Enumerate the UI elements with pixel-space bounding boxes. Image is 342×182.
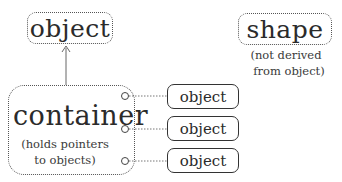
container-note: (holds pointers to objects) bbox=[9, 136, 121, 168]
shape-note-line1: (not derived bbox=[230, 47, 342, 63]
contained-object-box: object bbox=[167, 148, 239, 173]
container-note-line2: to objects) bbox=[9, 152, 121, 168]
shape-box: shape bbox=[238, 13, 332, 45]
pointer-circle-icon bbox=[121, 92, 129, 100]
container-box: container (holds pointers to objects) bbox=[8, 85, 135, 175]
pointer-circle-icon bbox=[121, 125, 129, 133]
base-object-label: object bbox=[30, 14, 111, 43]
container-note-line1: (holds pointers bbox=[9, 136, 121, 152]
shape-note-line2: from object) bbox=[230, 63, 342, 79]
contained-object-label: object bbox=[180, 88, 227, 106]
shape-label: shape bbox=[246, 15, 323, 44]
contained-object-label: object bbox=[180, 152, 227, 170]
shape-note: (not derived from object) bbox=[230, 47, 342, 79]
pointer-circle-icon bbox=[121, 157, 129, 165]
contained-object-box: object bbox=[167, 84, 239, 109]
contained-object-label: object bbox=[180, 120, 227, 138]
contained-object-box: object bbox=[167, 116, 239, 141]
base-object-box: object bbox=[27, 12, 113, 44]
